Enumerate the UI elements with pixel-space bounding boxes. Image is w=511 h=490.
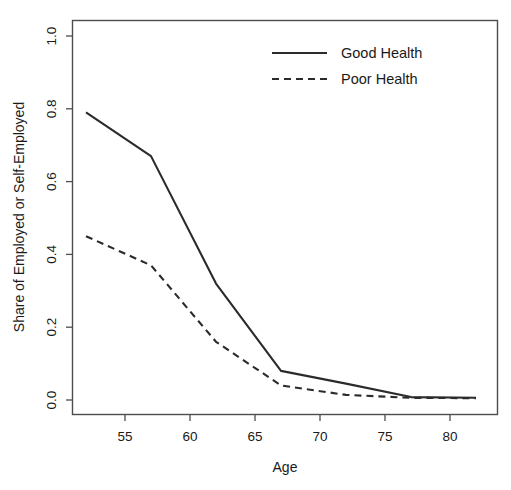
x-tick-label-3: 70: [312, 429, 327, 444]
y-tick-label-3: 0.6: [44, 172, 59, 191]
legend-label-poor-health: Poor Health: [341, 71, 418, 87]
chart-legend: Good Health Poor Health: [272, 45, 422, 87]
x-tick-label-2: 65: [247, 429, 262, 444]
legend-label-good-health: Good Health: [341, 45, 422, 61]
data-series-group: [86, 112, 476, 398]
x-tick-label-0: 55: [117, 429, 132, 444]
y-axis-tick-labels: 0.0 0.2 0.4 0.6 0.8 1.0: [44, 27, 59, 410]
y-tick-label-2: 0.4: [44, 245, 59, 264]
y-tick-label-4: 0.8: [44, 99, 59, 118]
x-axis-tick-labels: 55 60 65 70 75 80: [117, 429, 457, 444]
x-axis-ticks: [125, 415, 450, 422]
y-tick-label-0: 0.0: [44, 391, 59, 410]
y-tick-label-5: 1.0: [44, 27, 59, 46]
y-axis-title: Share of Employed or Self-Employed: [11, 102, 27, 332]
x-tick-label-4: 75: [377, 429, 392, 444]
series-line-good-health: [86, 112, 476, 397]
series-line-poor-health: [86, 236, 476, 398]
x-tick-label-1: 60: [182, 429, 197, 444]
x-axis-title: Age: [273, 459, 298, 475]
y-tick-label-1: 0.2: [44, 318, 59, 337]
line-chart-plot: 0.0 0.2 0.4 0.6 0.8 1.0 Share of Employe…: [0, 0, 511, 490]
y-axis-ticks: [66, 36, 73, 400]
chart-figure: 0.0 0.2 0.4 0.6 0.8 1.0 Share of Employe…: [0, 0, 511, 490]
x-tick-label-5: 80: [442, 429, 457, 444]
